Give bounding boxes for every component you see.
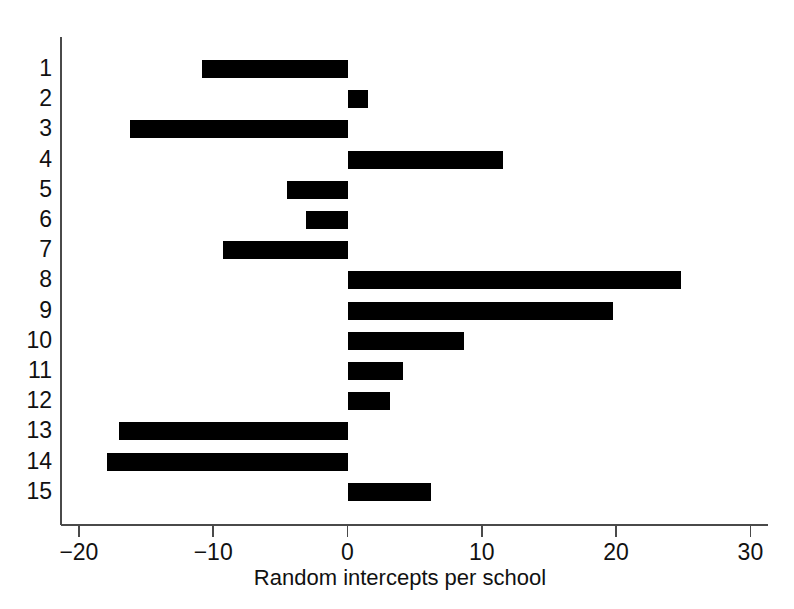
y-axis-tick-label: 9	[39, 297, 52, 323]
bar	[287, 181, 347, 199]
bar	[348, 332, 465, 350]
y-axis-tick-label: 8	[39, 266, 52, 292]
chart-svg: −20−100102030 123456789101112131415 Rand…	[0, 0, 794, 609]
bar	[348, 362, 403, 380]
y-axis-tick-label: 12	[26, 387, 52, 413]
y-axis-tick-label: 3	[39, 115, 52, 141]
y-axis-tick-label: 14	[26, 448, 52, 474]
bar	[306, 211, 348, 229]
x-axis-tick-label: −20	[59, 539, 98, 565]
bar	[223, 241, 348, 259]
y-axis-tick-label: 13	[26, 417, 52, 443]
y-axis-tick-label: 5	[39, 176, 52, 202]
y-axis-tick-label: 2	[39, 85, 52, 111]
bar	[348, 271, 681, 289]
x-axis-tick-label: 20	[603, 539, 629, 565]
x-axis-tick-label: 10	[469, 539, 495, 565]
x-axis-title: Random intercepts per school	[254, 565, 546, 590]
x-axis-tick-label: 0	[341, 539, 354, 565]
y-axis-tick-label: 1	[39, 55, 52, 81]
y-axis-tick-label: 15	[26, 478, 52, 504]
y-axis-tick-label: 11	[28, 357, 52, 383]
bar	[348, 483, 431, 501]
x-axis-tick-label: 30	[738, 539, 764, 565]
y-axis-tick-label: 6	[39, 206, 52, 232]
bar	[348, 90, 368, 108]
y-axis-tick-label: 4	[39, 146, 52, 172]
y-axis-tick-label: 7	[39, 236, 52, 262]
bar	[348, 151, 504, 169]
x-axis-tick-label: −10	[194, 539, 233, 565]
bar	[130, 120, 348, 138]
bar	[348, 302, 614, 320]
bar	[119, 422, 347, 440]
bar	[348, 392, 391, 410]
random-intercepts-bar-chart: −20−100102030 123456789101112131415 Rand…	[0, 0, 794, 609]
bar	[107, 453, 347, 471]
y-axis-tick-label: 10	[26, 327, 52, 353]
bar	[202, 60, 347, 78]
